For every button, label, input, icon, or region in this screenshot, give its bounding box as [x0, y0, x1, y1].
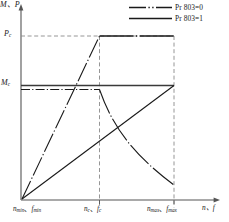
- series-solid-power: [22, 86, 174, 200]
- x-tick-label-min: nmin、fmin: [13, 206, 41, 213]
- x-axis-label: n、f: [202, 204, 215, 211]
- series-dashdot-power-rise: [22, 36, 100, 199]
- legend-label-pr803-0: Pr 803=0: [172, 3, 203, 12]
- x-tick-label-nc: nc、fc: [84, 206, 101, 213]
- legend-item-pr803-0: Pr 803=0: [128, 2, 228, 13]
- legend-swatch-dash-dot: [128, 2, 172, 13]
- x-axis-arrow: [214, 198, 220, 203]
- series-dashdot-torque-decay: [100, 90, 175, 186]
- y-tick-label-pc: Pc: [4, 30, 11, 38]
- x-tick-label-nmax: nmax、fmax: [147, 206, 177, 213]
- chart-figure: M、P Pc Mc nmin、fmin nc、fc nmax、fmax n、f …: [0, 0, 229, 222]
- y-axis-label: M、P: [0, 1, 20, 9]
- y-tick-label-mc: Mc: [1, 79, 10, 87]
- legend-swatch-solid: [128, 13, 172, 24]
- legend-label-pr803-1: Pr 803=1: [172, 14, 203, 23]
- legend-item-pr803-1: Pr 803=1: [128, 13, 228, 24]
- chart-legend: Pr 803=0 Pr 803=1: [128, 2, 228, 24]
- chart-canvas: [0, 0, 229, 222]
